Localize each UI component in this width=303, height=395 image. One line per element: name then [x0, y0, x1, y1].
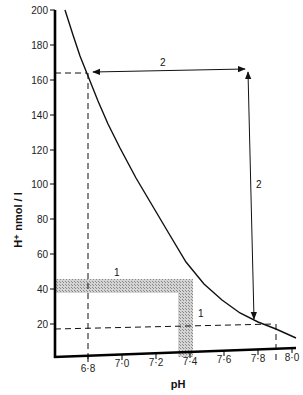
x-axis-title: pH — [171, 378, 186, 390]
band-v-label: 1 — [198, 308, 204, 319]
x-tick: 7·4 — [183, 356, 198, 367]
y-tick: 180 — [31, 40, 48, 51]
x-tick: 8·0 — [285, 352, 300, 363]
chart: 20 40 60 80 100 120 140 160 180 200 6·8 … — [0, 0, 303, 395]
x-tick: 6·8 — [81, 363, 96, 374]
y-tick: 60 — [37, 249, 49, 260]
x-tick: 7·2 — [149, 357, 164, 368]
band-h-label: 1 — [114, 267, 120, 278]
dashed-guides — [55, 73, 276, 362]
normal-h-band — [55, 279, 185, 293]
y-tick: 140 — [31, 110, 48, 121]
y-tick: 20 — [37, 319, 49, 330]
y-tick: 80 — [37, 214, 49, 225]
x-tick: 7·6 — [217, 354, 232, 365]
x-tick: 7·8 — [251, 353, 266, 364]
normal-ph-band — [178, 279, 193, 357]
y-tick: 120 — [31, 145, 48, 156]
y-axis-title: H⁺ nmol / l — [12, 192, 24, 248]
y-tick: 160 — [31, 75, 48, 86]
arrow-h-label: 2 — [160, 57, 166, 68]
y-tick: 200 — [31, 5, 48, 16]
y-axis-labels: 20 40 60 80 100 120 140 160 180 200 — [31, 5, 48, 330]
arrow-vertical-2 — [248, 72, 254, 319]
x-tick: 7·0 — [115, 358, 130, 369]
y-tick: 40 — [37, 284, 49, 295]
arrow-horizontal-2 — [93, 69, 245, 72]
arrow-v-label: 2 — [256, 179, 262, 190]
y-tick: 100 — [31, 179, 48, 190]
